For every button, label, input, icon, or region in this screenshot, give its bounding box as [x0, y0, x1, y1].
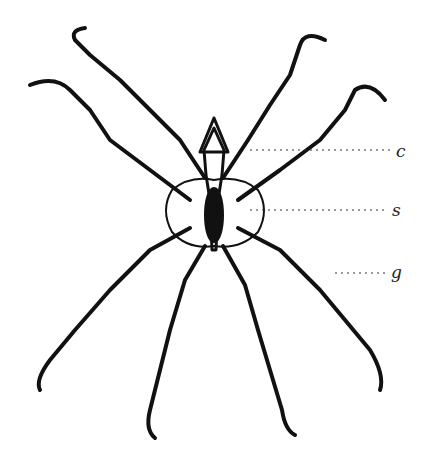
sea-spider-illustration [0, 0, 431, 460]
label-c: c [396, 143, 406, 160]
label-s: s [392, 202, 401, 219]
figure: c s g [0, 0, 431, 460]
label-g: g [391, 264, 402, 281]
